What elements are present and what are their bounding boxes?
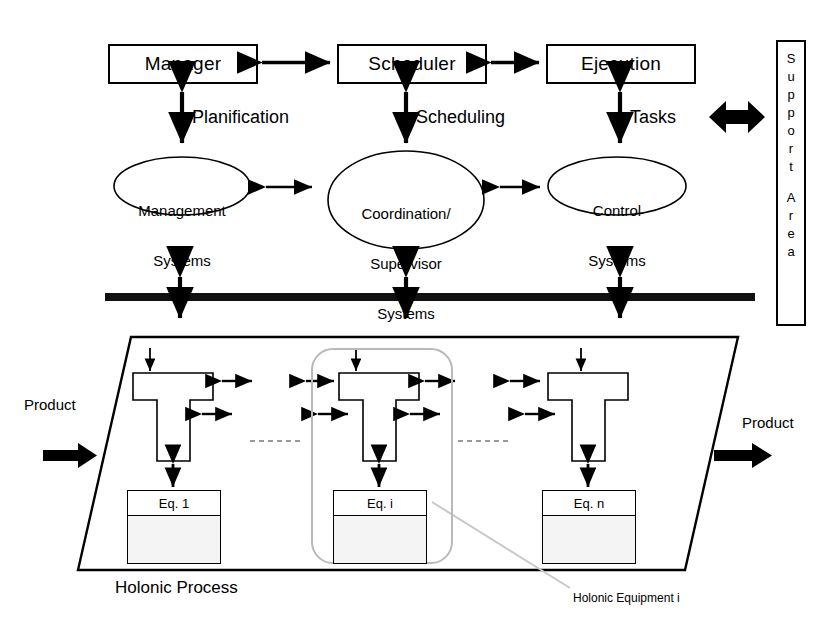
equipment-box-n-body — [543, 516, 635, 563]
equipment-box-1-header: Eq. 1 — [128, 491, 220, 516]
ellipse-coordination-line-0: Coordination/ — [336, 206, 476, 223]
vertical-link-scheduling-label: Scheduling — [416, 107, 505, 127]
equipment-box-i-label: Eq. i — [367, 496, 393, 511]
equipment-box-n-header: Eq. n — [543, 491, 635, 516]
equipment-box-i-body — [334, 516, 426, 563]
ellipse-control-systems-label: Control Systems — [549, 169, 685, 303]
equipment-box-i-header: Eq. i — [334, 491, 426, 516]
vertical-link-planification-label: Planification — [192, 107, 289, 127]
ellipse-management-line-0: Management — [114, 203, 250, 220]
equipment-box-1-label: Eq. 1 — [159, 496, 189, 511]
product-in-label: Product — [24, 397, 76, 414]
equipment-box-n[interactable]: Eq. n — [542, 490, 636, 564]
product-out-label: Product — [742, 415, 794, 432]
holonic-equipment-annotation: Holonic Equipment i — [573, 592, 680, 605]
thick-arrow-right-icon-out — [714, 443, 772, 468]
ellipse-coordination-line-2: Systems — [336, 306, 476, 323]
equipment-box-n-label: Eq. n — [574, 496, 604, 511]
block-double-arrow-horizontal-icon — [709, 101, 765, 133]
ellipse-coordination-supervisor-label: Coordination/ Supervisor Systems — [336, 172, 476, 357]
vertical-link-tasks-label: Tasks — [630, 107, 676, 127]
ellipse-management-systems-label: Management Systems — [114, 169, 250, 303]
equipment-box-1[interactable]: Eq. 1 — [127, 490, 221, 564]
ellipse-coordination-line-1: Supervisor — [336, 256, 476, 273]
ellipse-management-line-1: Systems — [114, 253, 250, 270]
thick-arrow-right-icon-in — [43, 443, 97, 468]
ellipse-control-line-1: Systems — [549, 253, 685, 270]
equipment-box-1-body — [128, 516, 220, 563]
ellipse-control-line-0: Control — [549, 203, 685, 220]
equipment-box-i[interactable]: Eq. i — [333, 490, 427, 564]
holonic-process-caption: Holonic Process — [115, 578, 238, 597]
diagram-canvas: Manager Scheduler Ejecution S u p p o r … — [0, 0, 830, 634]
